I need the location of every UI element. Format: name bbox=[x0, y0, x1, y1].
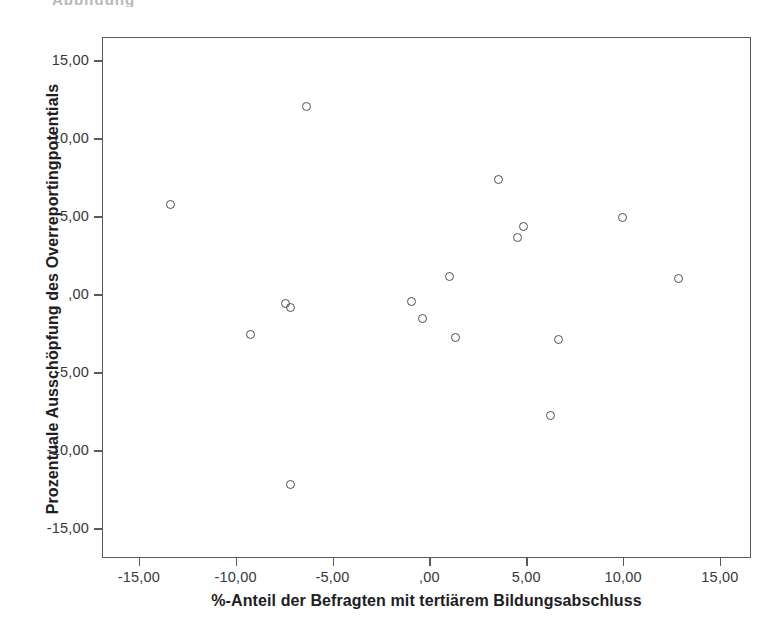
data-point bbox=[674, 274, 683, 283]
data-point bbox=[451, 333, 460, 342]
data-point bbox=[494, 175, 503, 184]
x-axis-tick-label: ,00 bbox=[419, 569, 440, 585]
x-axis-tick bbox=[333, 558, 334, 566]
data-point bbox=[166, 200, 175, 209]
data-point bbox=[407, 297, 416, 306]
y-axis-tick bbox=[94, 450, 102, 451]
y-axis-tick bbox=[94, 60, 102, 61]
data-point bbox=[554, 335, 563, 344]
x-axis-tick bbox=[236, 558, 237, 566]
data-point bbox=[302, 102, 311, 111]
y-axis-tick bbox=[94, 138, 102, 139]
data-point bbox=[286, 303, 295, 312]
x-axis-tick-label: -5,00 bbox=[316, 569, 350, 585]
y-axis-title: Prozentuale Ausschöpfung des Overreporti… bbox=[44, 19, 62, 579]
y-axis-tick-label: 5,00 bbox=[60, 208, 89, 224]
data-point bbox=[519, 222, 528, 231]
x-axis-tick-label: -10,00 bbox=[215, 569, 257, 585]
data-point bbox=[546, 411, 555, 420]
y-axis-tick bbox=[94, 528, 102, 529]
y-axis-tick bbox=[94, 294, 102, 295]
data-point bbox=[246, 330, 255, 339]
x-axis-tick bbox=[429, 558, 430, 566]
scatter-plot-figure: Abbildung -15,00-10,00-5,00,005,0010,001… bbox=[0, 0, 777, 640]
x-axis-tick-label: 15,00 bbox=[701, 569, 738, 585]
y-axis-tick bbox=[94, 216, 102, 217]
data-point bbox=[445, 272, 454, 281]
data-point bbox=[618, 213, 627, 222]
x-axis-tick bbox=[526, 558, 527, 566]
data-point bbox=[513, 233, 522, 242]
plot-area-frame bbox=[102, 37, 751, 558]
x-axis-tick-label: 5,00 bbox=[512, 569, 541, 585]
x-axis-tick bbox=[139, 558, 140, 566]
x-axis-tick-label: 10,00 bbox=[604, 569, 641, 585]
x-axis-tick-label: -15,00 bbox=[118, 569, 160, 585]
caption-fragment-text: Abbildung bbox=[52, 0, 312, 7]
x-axis-title: %-Anteil der Befragten mit tertiärem Bil… bbox=[102, 592, 751, 610]
data-point bbox=[286, 480, 295, 489]
y-axis-tick bbox=[94, 372, 102, 373]
y-axis-tick-label: ,00 bbox=[68, 286, 89, 302]
data-points-layer bbox=[103, 38, 750, 557]
x-axis-tick bbox=[623, 558, 624, 566]
x-axis-tick bbox=[720, 558, 721, 566]
data-point bbox=[418, 314, 427, 323]
